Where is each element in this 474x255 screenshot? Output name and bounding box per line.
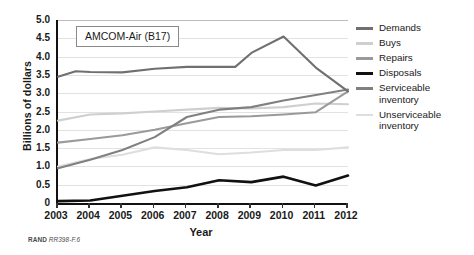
source-org: RAND [28,236,47,243]
y-tick-label: 4.0 [20,51,50,62]
y-tick-label: 3.0 [20,87,50,98]
legend-label: Unserviceable inventory [379,109,441,132]
legend-swatch [356,42,373,45]
legend-item: Unserviceable inventory [356,109,474,132]
x-tick [314,203,316,208]
legend-item: Repairs [356,52,474,64]
panel-title-box: AMCOM-Air (B17) [76,26,179,47]
legend-swatch [356,87,373,90]
x-tick [217,203,219,208]
y-tick-label: 5.0 [20,14,50,25]
y-tick-label: 2.0 [20,124,50,135]
plot-area [56,20,348,205]
y-tick-label: 1.5 [20,142,50,153]
legend-swatch [356,57,373,60]
series-line-disposals [58,176,348,202]
y-tick-label: 1.0 [20,160,50,171]
legend-label: Demands [379,22,421,34]
source-id: RR398-F.6 [49,236,80,243]
x-tick [346,203,348,208]
legend-label: Repairs [379,52,413,64]
legend-label: Disposals [379,67,421,79]
y-tick-label: 2.5 [20,106,50,117]
chart-figure: Billions of dollars 00.51.01.52.02.53.03… [0,0,474,255]
legend-item: Demands [356,22,474,34]
x-tick [120,203,122,208]
series-line-serviceable-inventory [58,90,348,169]
legend-item: Buys [356,37,474,49]
legend-swatch [356,27,373,30]
x-tick-label: 2012 [324,209,368,221]
legend-label: Buys [379,37,401,49]
legend-swatch [356,114,373,117]
x-tick [282,203,284,208]
x-tick [56,203,58,208]
x-tick [249,203,251,208]
y-tick-label: 4.5 [20,32,50,43]
source-note: RAND RR398-F.6 [28,236,80,243]
y-tick-label: 3.5 [20,69,50,80]
legend-label: Serviceable inventory [379,82,430,105]
series-lines [58,20,348,203]
x-axis-title: Year [56,226,346,238]
chart-legend: DemandsBuysRepairsDisposalsServiceable i… [356,22,474,135]
series-line-repairs [58,91,348,142]
y-tick-label: 0.5 [20,179,50,190]
legend-item: Disposals [356,67,474,79]
x-tick [185,203,187,208]
legend-item: Serviceable inventory [356,82,474,105]
y-tick-label: 0 [20,197,50,208]
x-tick [88,203,90,208]
x-tick [153,203,155,208]
legend-swatch [356,72,373,75]
